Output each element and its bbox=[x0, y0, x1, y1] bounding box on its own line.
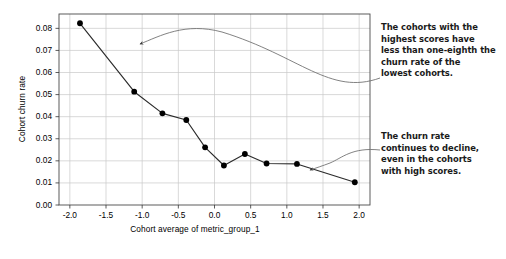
data-point bbox=[183, 117, 189, 123]
annotation-line: lowest cohorts. bbox=[381, 68, 506, 80]
y-tick-label: 0.04 bbox=[22, 111, 52, 121]
annotation-line: less than one-eighth the bbox=[381, 45, 506, 57]
y-tick-label: 0.07 bbox=[22, 45, 52, 55]
data-point bbox=[77, 20, 83, 26]
annotation-line: highest scores have bbox=[381, 34, 506, 46]
data-point bbox=[131, 89, 137, 95]
x-tick-label: 2.0 bbox=[344, 210, 374, 220]
annotation-line: even in the cohorts bbox=[381, 154, 506, 166]
y-tick-label: 0.00 bbox=[22, 200, 52, 210]
x-tick-label: -1.5 bbox=[91, 210, 121, 220]
data-point bbox=[242, 151, 248, 157]
x-tick-label: 0.0 bbox=[200, 210, 230, 220]
annotation-line: The churn rate bbox=[381, 131, 506, 143]
data-point bbox=[221, 163, 227, 169]
annotation-bottom: The churn ratecontinues to decline,even … bbox=[381, 131, 506, 177]
data-point bbox=[264, 161, 270, 167]
chart-figure: Cohort average of metric_group_1 Cohort … bbox=[0, 0, 506, 259]
x-tick-label: 0.5 bbox=[236, 210, 266, 220]
x-tick-label: -1.0 bbox=[127, 210, 157, 220]
annotation-line: churn rate of the bbox=[381, 57, 506, 69]
y-tick-label: 0.08 bbox=[22, 23, 52, 33]
y-tick-label: 0.05 bbox=[22, 89, 52, 99]
data-point bbox=[160, 110, 166, 116]
data-point bbox=[352, 179, 358, 185]
plot-area: Cohort average of metric_group_1 Cohort … bbox=[0, 0, 390, 240]
annotation-top: The cohorts with thehighest scores havel… bbox=[381, 22, 506, 80]
y-tick-label: 0.01 bbox=[22, 177, 52, 187]
annotation-line: continues to decline, bbox=[381, 143, 506, 155]
y-tick-label: 0.06 bbox=[22, 67, 52, 77]
chart-canvas bbox=[0, 0, 390, 240]
annotation-line: The cohorts with the bbox=[381, 22, 506, 34]
annotation-line: with high scores. bbox=[381, 166, 506, 178]
data-point bbox=[202, 144, 208, 150]
x-tick-label: 1.0 bbox=[272, 210, 302, 220]
x-tick-label: -0.5 bbox=[163, 210, 193, 220]
y-tick-label: 0.03 bbox=[22, 133, 52, 143]
y-tick-label: 0.02 bbox=[22, 155, 52, 165]
x-tick-label: -2.0 bbox=[55, 210, 85, 220]
x-axis-title: Cohort average of metric_group_1 bbox=[0, 224, 390, 234]
data-point bbox=[294, 161, 300, 167]
data-line bbox=[80, 23, 355, 182]
x-tick-label: 1.5 bbox=[308, 210, 338, 220]
